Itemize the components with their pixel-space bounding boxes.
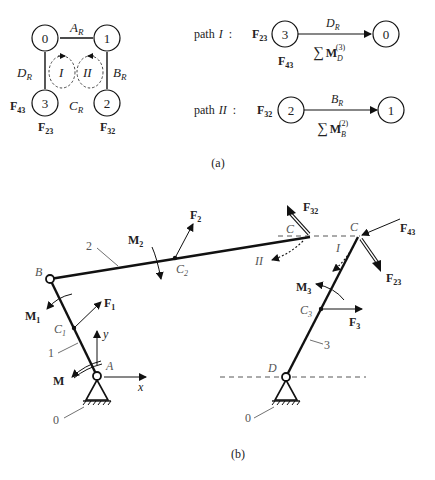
- moment-M-label: M: [53, 374, 64, 388]
- path-I-force-F43: F43: [278, 54, 293, 70]
- pin-joint-B: [46, 275, 54, 283]
- joint-label-C-link3: C: [350, 220, 359, 234]
- path-I-force-F23: F23: [252, 27, 267, 43]
- path-I-joint-D: DR: [325, 16, 340, 32]
- force-F43-arrow: [362, 219, 400, 235]
- edge-label-D: DR: [16, 65, 32, 82]
- graph-force-F43: F43: [10, 99, 25, 115]
- node-2-label: 2: [104, 96, 111, 111]
- edge-label-C: CR: [69, 98, 84, 115]
- force-F23-arrow: [361, 239, 381, 272]
- force-F3-label: F3: [349, 315, 360, 331]
- loop-II-label: II: [254, 254, 264, 268]
- x-axis-label: x: [137, 380, 144, 394]
- node-3-label: 3: [42, 96, 49, 111]
- force-F1-arrow: [74, 302, 101, 328]
- graph-force-F23: F23: [38, 120, 53, 136]
- path-II-to-label: 1: [388, 103, 395, 118]
- node-1-label: 1: [104, 31, 111, 46]
- path-II-force-F32: F32: [257, 103, 272, 119]
- moment-M2-label: M2: [128, 233, 143, 249]
- path-I-to-label: 0: [383, 27, 390, 42]
- path-I-from-label: 3: [282, 27, 289, 42]
- path-I-label: pathI:: [194, 27, 232, 41]
- force-F1-label: F1: [104, 296, 115, 312]
- pin-joint-D: [282, 373, 290, 381]
- center-label-C2: C2: [176, 262, 188, 278]
- link-label-2: 2: [86, 239, 92, 253]
- pin-joint-A: [93, 372, 101, 380]
- joint-label-B: B: [35, 265, 43, 279]
- contour-graph: 0 1 2 3 AR BR CR DR I II F43 F23 F32: [10, 20, 127, 136]
- moment-M1-label: M1: [25, 309, 40, 325]
- link-3: [286, 237, 358, 377]
- path-II-from-label: 2: [288, 103, 295, 118]
- center-label-C3: C3: [300, 303, 312, 319]
- link-label-1: 1: [48, 346, 54, 360]
- graph-force-F32: F32: [100, 120, 115, 136]
- loop-II-arrow: [272, 241, 303, 260]
- link-label-3: 3: [324, 338, 330, 352]
- center-label-C1: C1: [54, 322, 66, 338]
- force-F2-arrow: [175, 224, 193, 258]
- path-II-label: pathII:: [194, 103, 236, 117]
- force-F32-label: F32: [303, 200, 318, 216]
- node-0-label: 0: [42, 31, 49, 46]
- mechanism-figure: 0 1 2 3 AR BR CR DR I II F43 F23 F32 pat…: [0, 0, 435, 480]
- edge-label-B: BR: [113, 65, 127, 82]
- joint-label-D: D: [267, 361, 277, 375]
- edge-label-A: AR: [69, 20, 84, 37]
- ground-label-D: 0: [245, 411, 251, 425]
- force-F2-label: F2: [190, 208, 201, 224]
- path-II-joint-B: BR: [331, 92, 343, 108]
- force-F23-label: F23: [386, 271, 401, 287]
- path-I-diagram: pathI: F23 3 0 DR ∑MD(3) F43: [194, 16, 399, 70]
- y-axis-label: y: [102, 327, 109, 341]
- moment-M3-label: M3: [296, 280, 311, 296]
- path-I-moment-sum: ∑MD(3): [313, 43, 345, 63]
- force-F43-label: F43: [400, 221, 415, 237]
- loop-II-label: II: [82, 65, 92, 80]
- ground-support-D: [272, 380, 300, 405]
- ground-label-A: 0: [53, 413, 59, 427]
- joint-label-C-link2: C: [286, 222, 295, 236]
- ground-support-A: [83, 380, 111, 405]
- joint-label-A: A: [105, 359, 114, 373]
- panel-a-label: (a): [211, 156, 224, 170]
- panel-b-label: (b): [231, 447, 245, 461]
- path-II-moment-sum: ∑MB(2): [317, 119, 349, 139]
- path-II-diagram: pathII: F32 2 1 BR ∑MB(2): [194, 92, 404, 139]
- loop-I-label: I: [335, 241, 341, 255]
- loop-I-label: I: [58, 65, 64, 80]
